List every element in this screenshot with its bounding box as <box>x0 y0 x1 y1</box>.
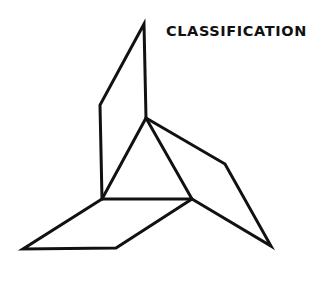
bottom-blade <box>23 199 192 249</box>
central-triangle <box>102 118 192 199</box>
right-blade <box>146 118 271 246</box>
classification-figure <box>0 0 318 283</box>
top-blade <box>100 24 146 199</box>
